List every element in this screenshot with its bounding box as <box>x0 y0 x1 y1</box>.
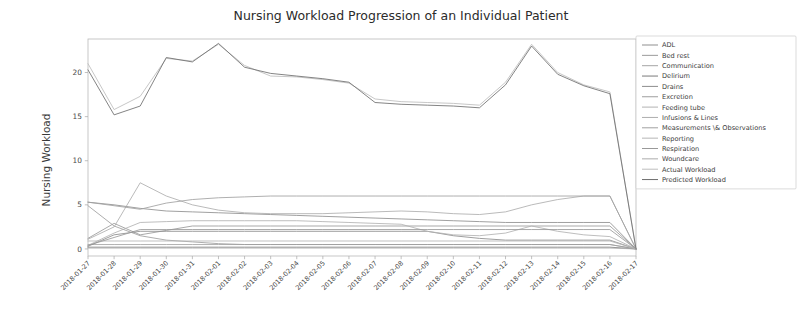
legend-label-13: Predicted Workload <box>662 176 726 184</box>
y-tick-label-2: 10 <box>73 156 83 165</box>
legend-label-8: Measurements \& Observations <box>662 124 766 132</box>
y-tick-label-1: 5 <box>77 200 82 209</box>
plot-frame <box>88 39 636 256</box>
legend-background <box>636 36 796 189</box>
legend-label-7: Infusions & Lines <box>662 114 719 122</box>
legend-label-11: Woundcare <box>662 155 699 163</box>
chart-legend: ADLBed restCommunicationDeliriumDrainsEx… <box>636 36 796 189</box>
nursing-workload-line-chart: Nursing Workload Progression of an Indiv… <box>0 0 802 312</box>
y-tick-label-4: 20 <box>73 68 83 77</box>
legend-label-9: Reporting <box>662 135 694 143</box>
series-line-7 <box>88 183 636 249</box>
series-line-12 <box>88 44 636 249</box>
x-axis-ticks: 2018-01-272018-01-282018-01-292018-01-30… <box>59 256 640 292</box>
legend-label-3: Delirium <box>662 72 690 80</box>
legend-label-10: Respiration <box>662 145 699 153</box>
series-line-13 <box>88 43 636 249</box>
series-line-0 <box>88 202 636 249</box>
plot-axes <box>88 39 636 256</box>
series-line-1 <box>88 223 636 249</box>
legend-label-4: Drains <box>662 83 684 91</box>
legend-label-5: Excretion <box>662 93 693 101</box>
legend-label-2: Communication <box>662 62 714 70</box>
chart-figure: Nursing Workload Progression of an Indiv… <box>0 0 802 312</box>
legend-label-0: ADL <box>662 41 676 49</box>
y-axis-label: Nursing Workload <box>40 114 52 207</box>
y-axis-ticks: 05101520 <box>73 68 88 253</box>
series-lines <box>88 43 636 249</box>
y-tick-label-0: 0 <box>77 245 82 254</box>
legend-label-6: Feeding tube <box>662 104 705 112</box>
series-line-10 <box>88 230 636 249</box>
chart-title: Nursing Workload Progression of an Indiv… <box>234 8 569 23</box>
y-tick-label-3: 15 <box>73 112 83 121</box>
series-line-11 <box>88 248 636 249</box>
legend-label-12: Actual Workload <box>662 166 716 174</box>
legend-label-1: Bed rest <box>662 52 690 60</box>
